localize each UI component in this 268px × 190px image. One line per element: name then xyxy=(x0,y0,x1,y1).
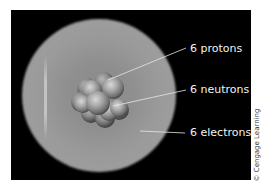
neutrons-leader-line xyxy=(113,90,186,106)
protons-label: 6 protons xyxy=(190,43,242,55)
neutrons-label: 6 neutrons xyxy=(190,84,249,96)
copyright-credit: © Cengage Learning xyxy=(253,109,261,182)
electrons-label: 6 electrons xyxy=(190,127,251,139)
atom-diagram-panel: 6 protons 6 neutrons 6 electrons xyxy=(11,10,251,180)
nucleus xyxy=(71,72,129,128)
electrons-leader-line xyxy=(140,131,185,133)
protons-leader-line xyxy=(108,48,186,80)
